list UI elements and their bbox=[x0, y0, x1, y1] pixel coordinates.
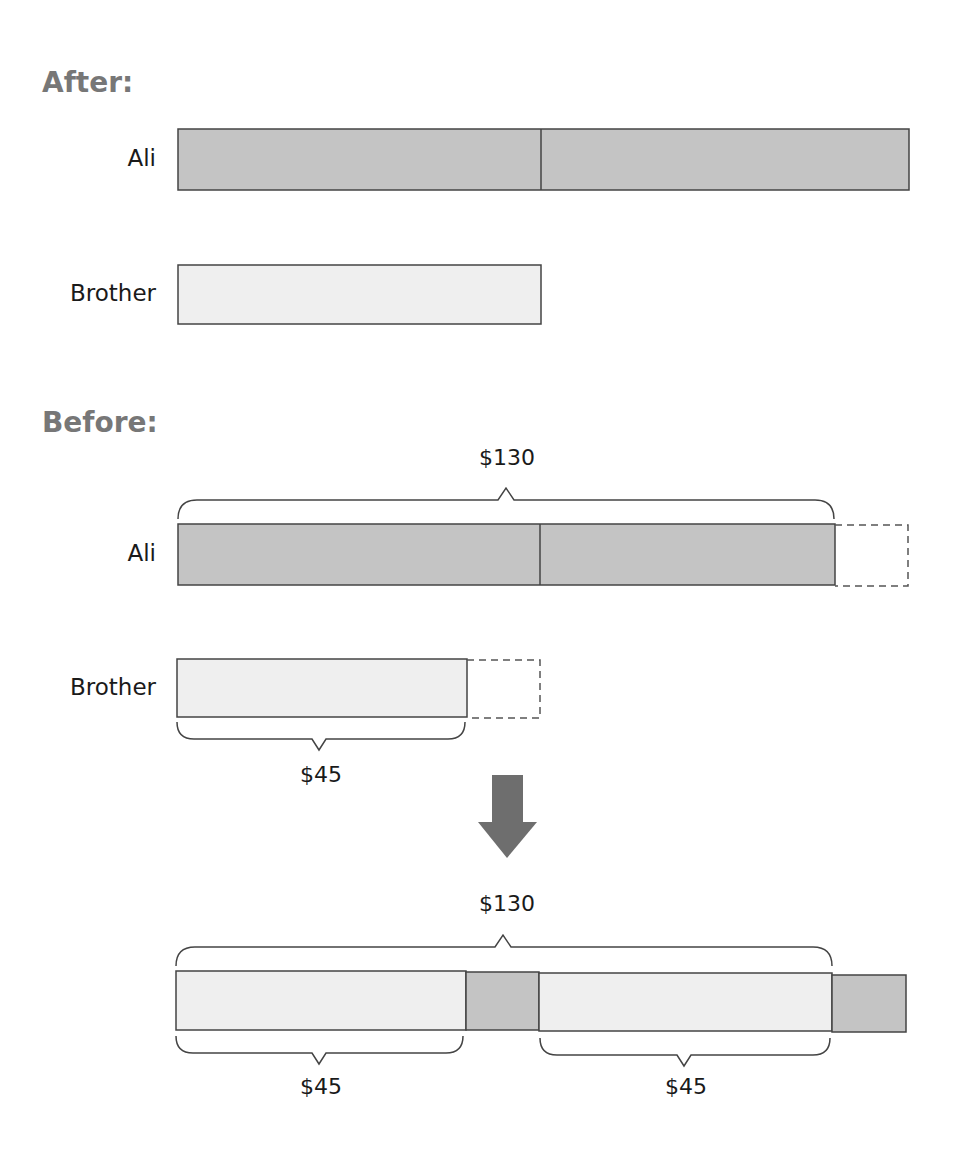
down-arrow-icon bbox=[478, 775, 537, 858]
before-brother-brace bbox=[177, 722, 465, 750]
result-total-brace bbox=[176, 935, 832, 966]
result-left-brace bbox=[176, 1036, 463, 1064]
tape-diagram bbox=[0, 0, 965, 1155]
after-brother-bar bbox=[178, 265, 541, 324]
result-right-brace bbox=[540, 1038, 830, 1066]
before-ali-bar bbox=[178, 524, 908, 586]
after-ali-bar bbox=[178, 129, 909, 190]
before-ali-brace bbox=[178, 488, 834, 519]
before-brother-bar bbox=[177, 659, 540, 718]
result-bar bbox=[176, 971, 906, 1032]
